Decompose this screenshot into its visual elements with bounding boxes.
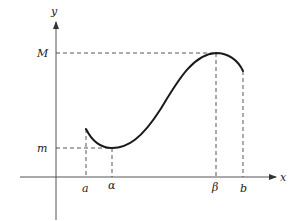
function-curve: [86, 53, 243, 148]
x-axis-label: x: [280, 171, 287, 184]
beta-tick-label: β: [211, 181, 218, 194]
extrema-diagram: y x M m a α β b: [0, 0, 304, 221]
a-tick-label: a: [82, 182, 89, 195]
y-axis-label: y: [50, 5, 58, 18]
min-value-label: m: [37, 142, 47, 155]
alpha-tick-label: α: [108, 179, 116, 192]
b-tick-label: b: [240, 182, 247, 195]
max-value-label: M: [36, 47, 49, 60]
guide-lines: [56, 53, 243, 177]
